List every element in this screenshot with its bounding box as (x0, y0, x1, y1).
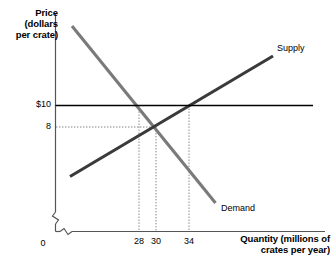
supply-curve (70, 56, 273, 177)
x-axis-break-icon (60, 229, 72, 235)
demand-curve-label: Demand (221, 203, 255, 213)
y-tick-label-8: 8 (20, 121, 51, 131)
y-tick-label-10: $10 (20, 99, 51, 109)
supply-curve-label: Supply (277, 43, 305, 53)
y-axis-break-icon (53, 212, 59, 224)
y-axis-title: Price (dollars per crate) (2, 8, 58, 41)
origin-label: 0 (36, 238, 50, 248)
x-axis-title: Quantity (millions of crates per year) (212, 234, 330, 256)
x-tick-label-34: 34 (179, 236, 199, 246)
supply-demand-chart: Price (dollars per crate) Quantity (mill… (0, 0, 332, 270)
demand-curve (72, 26, 216, 203)
x-tick-label-30: 30 (146, 236, 166, 246)
